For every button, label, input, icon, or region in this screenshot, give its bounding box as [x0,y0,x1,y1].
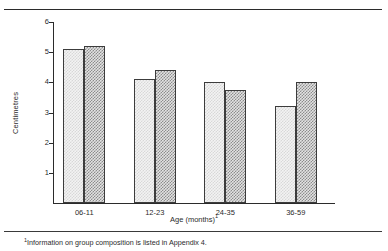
y-tick-label: 4 [45,79,49,87]
y-tick-label: 2 [45,139,49,147]
bar-group [134,22,176,203]
bar-group [63,22,105,203]
plot-area: Centimetres 123456 06-1112-2324-3536-59 [53,22,335,203]
y-tick-label: 3 [45,109,49,117]
bar [134,79,155,203]
y-tick-label: 6 [45,18,49,26]
x-axis-title-text: Age (months) [170,215,215,224]
bottom-divider-rule [4,231,382,232]
y-tick [49,52,53,53]
x-axis-title: Age (months)1 [53,213,335,224]
footnote-text: Information on group composition is list… [27,238,207,247]
bar [155,70,176,203]
x-axis-footnote-marker: 1 [215,213,218,219]
figure-container: Centimetres 123456 06-1112-2324-3536-59 … [0,0,388,251]
y-tick-label: 1 [45,169,49,177]
y-tick [49,82,53,83]
bar [296,82,317,203]
y-axis-title: Centimetres [11,91,20,133]
top-divider-rule [4,9,382,10]
bar-group [275,22,317,203]
y-tick [49,173,53,174]
y-tick-label: 5 [45,48,49,56]
y-axis-line [53,22,54,203]
bar-group [204,22,246,203]
y-tick [49,143,53,144]
bar [225,90,246,203]
footnote: 1Information on group composition is lis… [24,237,207,247]
y-tick [49,113,53,114]
bar [63,49,84,203]
bar [84,46,105,203]
x-axis-line [53,203,335,204]
bar [204,82,225,203]
y-tick [49,22,53,23]
bar [275,106,296,203]
